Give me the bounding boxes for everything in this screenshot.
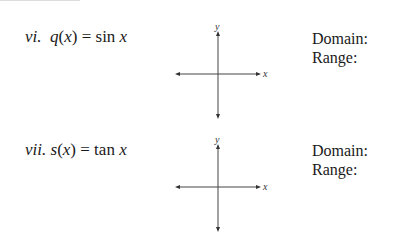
y-axis-label: y [214, 22, 220, 32]
arrow-left-icon [175, 185, 180, 189]
function-label: vi. q(x) = sin x [25, 27, 127, 47]
expression-variable: x [119, 140, 127, 159]
x-axis-label: x [262, 68, 268, 79]
coordinate-axes: y x [170, 22, 270, 122]
domain-label: Domain: [312, 141, 368, 160]
range-label: Range: [312, 160, 368, 179]
axes-graphic: y x [170, 22, 270, 122]
problem-vi: vi. q(x) = sin x y x Domain: Range: [0, 0, 413, 120]
range-label: Range: [312, 48, 368, 67]
problem-vii: vii. s(x) = tan x y x Domain: Range: [0, 118, 413, 238]
arrow-down-icon [216, 227, 220, 232]
expression-function: tan [94, 140, 115, 159]
x-axis-label: x [262, 181, 268, 192]
axes-graphic: y x [170, 135, 270, 235]
domain-label: Domain: [312, 29, 368, 48]
problem-number: vi. [25, 27, 42, 46]
equals-sign: = [80, 140, 90, 159]
domain-range-block: Domain: Range: [312, 29, 368, 67]
coordinate-axes: y x [170, 135, 270, 235]
problem-number: vii. [25, 140, 46, 159]
function-label: vii. s(x) = tan x [25, 140, 127, 160]
equals-sign: = [82, 27, 92, 46]
function-name: q [50, 27, 59, 46]
arrow-right-icon [256, 72, 261, 76]
expression-variable: x [120, 27, 128, 46]
arrow-left-icon [175, 72, 180, 76]
arrow-right-icon [256, 185, 261, 189]
domain-range-block: Domain: Range: [312, 141, 368, 179]
function-variable: x [64, 27, 72, 46]
expression-function: sin [96, 27, 116, 46]
y-axis-label: y [214, 135, 220, 145]
